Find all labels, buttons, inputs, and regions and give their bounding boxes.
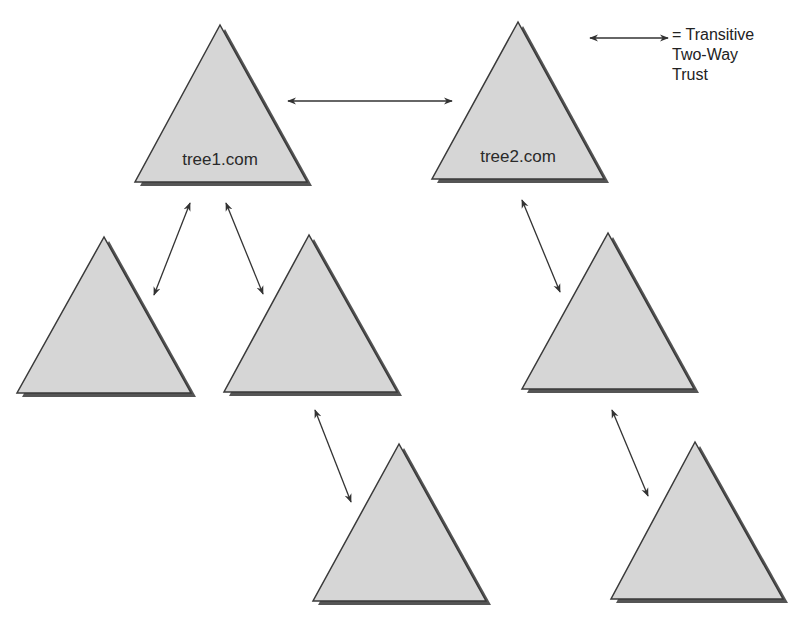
trust-arrow-icon — [226, 203, 263, 294]
tree-triangle-icon — [522, 233, 694, 389]
trust-arrow-icon — [612, 410, 648, 496]
domain-tree-t6 — [313, 444, 491, 605]
trust-diagram: tree1.comtree2.com — [0, 0, 809, 623]
tree-label: tree1.com — [182, 150, 258, 169]
domain-tree-t3 — [17, 237, 196, 397]
domain-tree-t4 — [224, 235, 402, 396]
trust-arrow-icon — [154, 203, 190, 295]
tree-triangle-icon — [611, 442, 783, 599]
domain-tree-tree1-com: tree1.com — [135, 25, 312, 186]
domain-tree-t7 — [611, 442, 788, 603]
legend-line-3: Trust — [672, 65, 754, 85]
domain-trees: tree1.comtree2.com — [17, 22, 788, 605]
legend: = Transitive Two-Way Trust — [672, 25, 754, 85]
domain-tree-t5 — [522, 233, 699, 393]
legend-line-1: = Transitive — [672, 25, 754, 45]
legend-line-2: Two-Way — [672, 45, 754, 65]
tree-label: tree2.com — [480, 147, 556, 166]
tree-triangle-icon — [313, 444, 486, 601]
trust-arrow-icon — [315, 410, 351, 502]
domain-tree-tree2-com: tree2.com — [432, 22, 609, 183]
tree-triangle-icon — [17, 237, 191, 393]
trust-arrow-icon — [522, 200, 560, 292]
tree-triangle-icon — [224, 235, 397, 392]
